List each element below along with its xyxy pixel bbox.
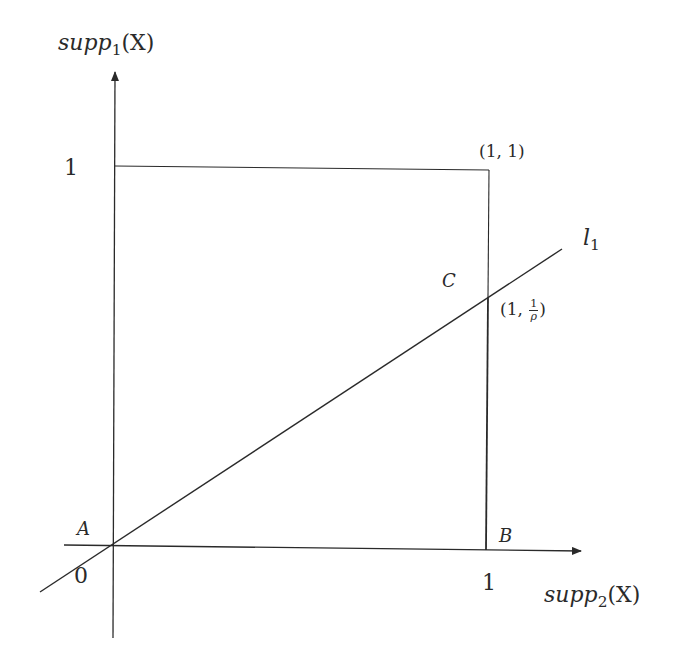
c-coord-suffix: ) <box>539 299 546 319</box>
origin-label: 0 <box>74 565 88 587</box>
line-l1-label: l1 <box>583 227 600 254</box>
y-axis-label: supp1(X) <box>58 32 154 59</box>
c-coord-num: 1 <box>529 298 538 311</box>
x-axis-label-sub: 2 <box>598 593 608 611</box>
y-axis-label-sub: 1 <box>112 41 122 59</box>
y-tick-1: 1 <box>64 157 78 179</box>
line-label-base: l <box>583 225 590 250</box>
diagram-canvas: supp1(X) 1 (1, 1) l1 C (1, 1ρ) A B 0 1 s… <box>0 0 685 666</box>
square-right-edge-upper <box>488 170 489 297</box>
c-coord-prefix: (1, <box>500 299 528 319</box>
x-axis-label: supp2(X) <box>544 584 640 611</box>
corner-label: (1, 1) <box>479 143 525 160</box>
point-a-label: A <box>77 520 90 538</box>
point-c-label: C <box>442 272 456 290</box>
diagram-figure <box>0 0 685 666</box>
line-l1 <box>40 249 562 592</box>
y-axis-label-arg: (X) <box>121 30 154 55</box>
y-axis-label-base: supp <box>58 30 112 55</box>
line-label-sub: 1 <box>590 236 600 254</box>
c-coord-den: ρ <box>529 311 538 323</box>
segment-cb <box>486 297 488 550</box>
point-b-label: B <box>499 527 512 545</box>
x-axis-label-arg: (X) <box>607 582 640 607</box>
y-axis <box>113 72 115 638</box>
square-top-edge <box>115 166 489 170</box>
x-axis-label-base: supp <box>544 582 598 607</box>
c-coord-fraction: 1ρ <box>529 298 538 322</box>
point-c-coordinates: (1, 1ρ) <box>500 298 546 322</box>
x-tick-1: 1 <box>482 572 496 594</box>
